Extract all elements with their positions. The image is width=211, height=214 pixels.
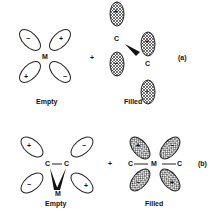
sign: + (27, 142, 31, 149)
sign: − (170, 142, 174, 149)
sign: − (26, 35, 30, 42)
sign: − (136, 179, 140, 186)
panel-tag-b: (b) (198, 160, 207, 167)
sign: + (59, 35, 63, 42)
sign: − (82, 142, 86, 149)
carbon-atom-label: C (45, 160, 50, 167)
sign: + (170, 179, 174, 186)
filled-label: Filled (145, 200, 163, 207)
sign: − (114, 60, 118, 67)
plus-operator: + (108, 160, 112, 167)
carbon-atom-label: C (145, 60, 150, 67)
metal-atom-label: M (55, 190, 61, 197)
panel-tag-a: (a) (178, 54, 187, 61)
sign: + (145, 38, 149, 45)
sign: + (84, 182, 88, 189)
metal-atom-label: M (151, 160, 157, 167)
plus-operator: + (90, 54, 94, 61)
sign: + (24, 73, 28, 80)
carbon-atom-label: C (177, 160, 182, 167)
carbon-atom-label: C (64, 160, 69, 167)
sign: − (145, 88, 149, 95)
metal-atom-label: M (42, 53, 48, 60)
carbon-atom-label: C (128, 160, 133, 167)
sign: + (114, 8, 118, 15)
sign: + (136, 142, 140, 149)
filled-label: Filled (124, 98, 142, 105)
orbital-diagram (0, 0, 211, 214)
wedge-bond (125, 44, 140, 56)
sign: − (27, 181, 31, 188)
sign: − (63, 73, 67, 80)
empty-label: Empty (45, 200, 66, 207)
empty-label: Empty (36, 98, 57, 105)
carbon-atom-label: C (114, 35, 119, 42)
